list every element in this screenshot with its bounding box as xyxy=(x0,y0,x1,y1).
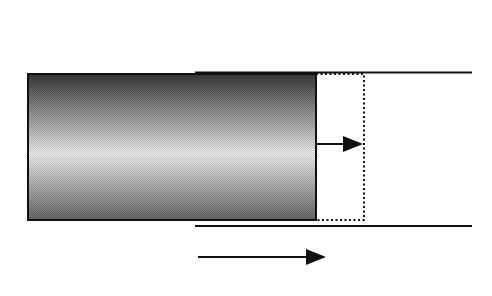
iron-core xyxy=(28,74,316,220)
solenoid-diagram xyxy=(0,0,492,296)
displaced-core-outline xyxy=(316,74,364,220)
